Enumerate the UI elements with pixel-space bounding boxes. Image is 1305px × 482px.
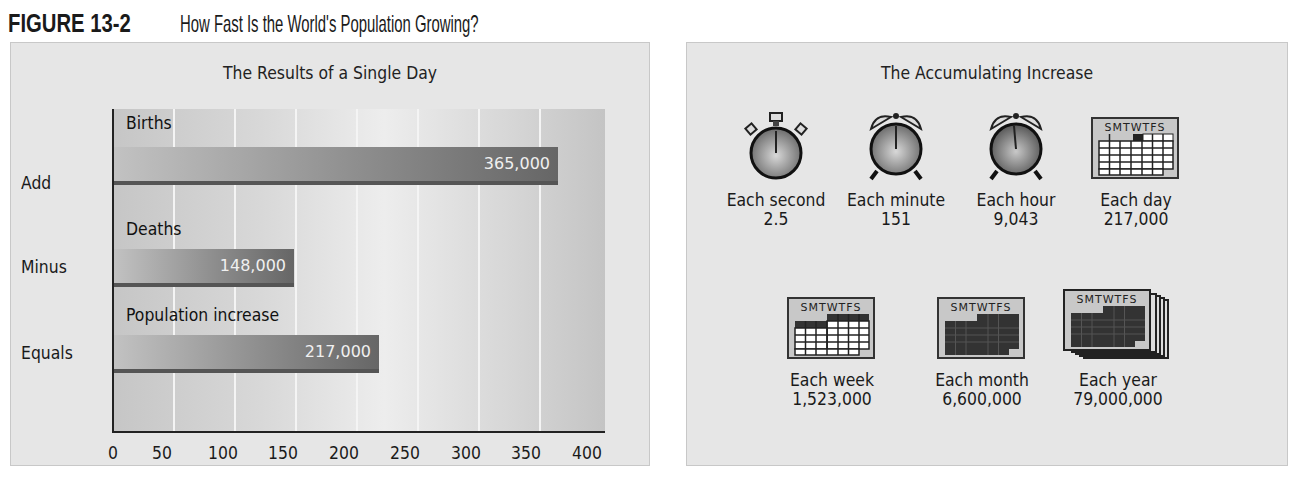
bar-name-population-increase: Population increase bbox=[126, 305, 279, 325]
bar-births: 365,000 bbox=[114, 147, 558, 181]
x-tick: 100 bbox=[208, 443, 238, 463]
alarm-clock-icon bbox=[951, 103, 1081, 181]
x-tick: 150 bbox=[268, 443, 298, 463]
period-value: 1,523,000 bbox=[772, 390, 892, 409]
single-day-title: The Results of a Single Day bbox=[37, 63, 624, 83]
svg-text:SMTWTFS: SMTWTFS bbox=[951, 301, 1012, 314]
item-each-minute: Each minute 151 bbox=[831, 103, 961, 229]
item-each-year: SMTWTFS Each year 79,000,000 bbox=[1053, 283, 1183, 409]
period-label: Each month bbox=[922, 371, 1042, 390]
item-each-hour: Each hour 9,043 bbox=[951, 103, 1081, 229]
bar-population-increase: 217,000 bbox=[114, 335, 379, 369]
x-tick: 400 bbox=[572, 443, 602, 463]
calendar-day-icon: SMTWTFS bbox=[1071, 103, 1201, 181]
panel-divider bbox=[650, 42, 686, 466]
bar-name-deaths: Deaths bbox=[126, 219, 181, 239]
bar-name-births: Births bbox=[126, 113, 172, 133]
svg-text:SMTWTFS: SMTWTFS bbox=[1105, 121, 1166, 134]
period-label: Each year bbox=[1058, 371, 1178, 390]
period-value: 6,600,000 bbox=[922, 390, 1042, 409]
period-value: 2.5 bbox=[716, 210, 836, 229]
period-label: Each minute bbox=[836, 191, 956, 210]
calendar-week-icon: SMTWTFS bbox=[767, 283, 897, 361]
svg-text:SMTWTFS: SMTWTFS bbox=[1077, 293, 1138, 306]
figure-number: FIGURE 13-2 bbox=[8, 8, 131, 39]
bar-value-births: 365,000 bbox=[484, 154, 550, 173]
x-tick: 0 bbox=[108, 443, 118, 463]
bar-deaths: 148,000 bbox=[114, 249, 294, 283]
period-value: 151 bbox=[836, 210, 956, 229]
category-equals: Equals bbox=[21, 343, 73, 363]
single-day-panel: The Results of a Single Day Births 365,0… bbox=[10, 42, 650, 466]
calendar-year-icon: SMTWTFS bbox=[1053, 283, 1183, 361]
alarm-clock-icon bbox=[831, 103, 961, 181]
accumulating-panel: The Accumulating Increase Each second 2.… bbox=[686, 42, 1288, 466]
period-value: 79,000,000 bbox=[1058, 390, 1178, 409]
x-tick: 300 bbox=[451, 443, 481, 463]
bar-chart-plot: Births 365,000 Deaths 148,000 Population… bbox=[112, 109, 605, 433]
period-label: Each hour bbox=[956, 191, 1076, 210]
item-each-day: SMTWTFS Each day 217,000 bbox=[1071, 103, 1201, 229]
x-tick: 200 bbox=[329, 443, 359, 463]
category-minus: Minus bbox=[21, 257, 67, 277]
stopwatch-icon bbox=[711, 103, 841, 181]
period-value: 217,000 bbox=[1076, 210, 1196, 229]
accumulating-title: The Accumulating Increase bbox=[711, 63, 1263, 83]
item-each-second: Each second 2.5 bbox=[711, 103, 841, 229]
period-value: 9,043 bbox=[956, 210, 1076, 229]
item-each-month: SMTWTFS Each month 6,600,000 bbox=[917, 283, 1047, 409]
figure-caption: How Fast Is the World's Population Growi… bbox=[180, 10, 479, 38]
period-label: Each day bbox=[1076, 191, 1196, 210]
figure-title: FIGURE 13-2 How Fast Is the World's Popu… bbox=[8, 8, 166, 38]
bar-value-deaths: 148,000 bbox=[220, 256, 286, 275]
x-tick: 350 bbox=[511, 443, 541, 463]
category-add: Add bbox=[21, 173, 51, 193]
x-tick: 50 bbox=[152, 443, 172, 463]
bar-value-population-increase: 217,000 bbox=[305, 342, 371, 361]
item-each-week: SMTWTFS Each week 1,523,000 bbox=[767, 283, 897, 409]
calendar-month-icon: SMTWTFS bbox=[917, 283, 1047, 361]
x-tick: 250 bbox=[390, 443, 420, 463]
svg-text:SMTWTFS: SMTWTFS bbox=[801, 301, 862, 314]
period-label: Each week bbox=[772, 371, 892, 390]
period-label: Each second bbox=[716, 191, 836, 210]
